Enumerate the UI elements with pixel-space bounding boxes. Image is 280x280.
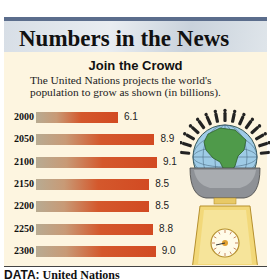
bar-category-label: 2250 xyxy=(14,223,34,234)
bar-value-label: 9.0 xyxy=(162,245,176,256)
bar-value-label: 8.5 xyxy=(155,178,169,189)
bar-value-label: 6.1 xyxy=(124,111,138,122)
bar-category-label: 2300 xyxy=(14,245,34,256)
data-source-label: DATA: xyxy=(4,268,40,280)
bar xyxy=(36,179,149,190)
chart-description: The United Nations projects the world's … xyxy=(30,74,260,98)
bar-category-label: 2050 xyxy=(14,133,34,144)
header-band: Numbers in the News xyxy=(4,21,267,52)
bar xyxy=(36,134,154,145)
bar xyxy=(36,224,153,235)
globe-scale-icon xyxy=(180,100,270,265)
bar-category-label: 2200 xyxy=(14,200,34,211)
bar-category-label: 2150 xyxy=(14,178,34,189)
chart-title: Join the Crowd xyxy=(4,58,267,73)
page-title: Numbers in the News xyxy=(19,26,229,52)
bar-category-label: 2100 xyxy=(14,156,34,167)
bar-value-label: 8.9 xyxy=(160,133,174,144)
bar-value-label: 8.5 xyxy=(155,200,169,211)
data-source: DATA: United Nations xyxy=(4,268,120,280)
bar xyxy=(36,157,157,168)
data-source-value: United Nations xyxy=(43,268,120,280)
bar xyxy=(36,112,118,123)
bar xyxy=(36,201,149,212)
bar-category-label: 2000 xyxy=(14,111,34,122)
bar-value-label: 9.1 xyxy=(163,156,177,167)
infographic-panel: Numbers in the News Join the Crowd The U… xyxy=(4,17,267,267)
bar xyxy=(36,246,156,257)
bar-value-label: 8.8 xyxy=(159,223,173,234)
